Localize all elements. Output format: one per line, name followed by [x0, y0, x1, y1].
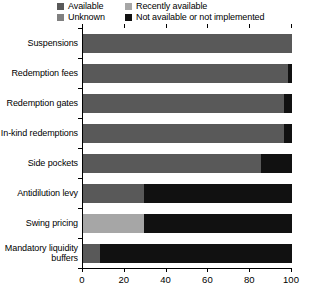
x-tick-label-0: 0: [79, 274, 84, 285]
y-tick-5: [78, 178, 82, 179]
bar-segment: [261, 154, 292, 173]
y-tick-1: [78, 58, 82, 59]
x-tick-0: [82, 268, 83, 272]
x-tick-label-20: 20: [119, 274, 130, 285]
x-tick-top-0: [82, 24, 83, 28]
x-tick-80: [249, 268, 250, 272]
x-tick-100: [291, 268, 292, 272]
legend-row-2: Unknown Not available or not implemented: [57, 12, 297, 23]
stacked-bar-chart: Available Recently available Unknown Not…: [0, 0, 323, 294]
legend-label-unknown: Unknown: [68, 12, 105, 23]
bar-segment: [144, 214, 292, 233]
bar-segment: [83, 184, 144, 203]
chart-legend: Available Recently available Unknown Not…: [57, 1, 297, 23]
legend-entry-recently-available: Recently available: [125, 1, 207, 12]
x-tick-top-40: [166, 24, 167, 28]
y-axis-label: Side pockets: [0, 158, 78, 168]
x-tick-top-80: [249, 24, 250, 28]
legend-swatch-unknown: [57, 14, 64, 21]
legend-label-available: Available: [68, 1, 103, 12]
y-axis-label: Redemption fees: [0, 68, 78, 78]
y-axis-label: Swing pricing: [0, 218, 78, 228]
y-tick-3: [78, 118, 82, 119]
y-tick-7: [78, 238, 82, 239]
y-axis-label: Antidilution levy: [0, 188, 78, 198]
legend-swatch-available: [57, 3, 64, 10]
x-tick-label-100: 100: [283, 274, 299, 285]
x-tick-label-40: 40: [160, 274, 171, 285]
y-tick-6: [78, 208, 82, 209]
bar-row: [83, 34, 292, 53]
bar-segment: [284, 94, 292, 113]
y-tick-8: [78, 268, 82, 269]
x-tick-top-20: [124, 24, 125, 28]
legend-entry-not-available: Not available or not implemented: [125, 12, 264, 23]
bar-row: [83, 154, 292, 173]
bar-row: [83, 64, 292, 83]
bar-row: [83, 124, 292, 143]
y-tick-2: [78, 88, 82, 89]
legend-label-recently-available: Recently available: [136, 1, 207, 12]
x-axis-line: [82, 268, 292, 269]
bar-row: [83, 244, 292, 263]
y-axis-label: Redemption gates: [0, 98, 78, 108]
bar-row: [83, 214, 292, 233]
bar-row: [83, 184, 292, 203]
legend-label-not-available: Not available or not implemented: [136, 12, 264, 23]
x-tick-label-80: 80: [244, 274, 255, 285]
y-tick-4: [78, 148, 82, 149]
bar-segment: [83, 214, 144, 233]
legend-swatch-recently-available: [125, 3, 132, 10]
bar-segment: [83, 64, 288, 83]
x-tick-20: [124, 268, 125, 272]
plot-area: 020406080100: [82, 28, 291, 268]
x-tick-top-60: [207, 24, 208, 28]
bar-segment: [83, 94, 284, 113]
bar-segment: [83, 154, 261, 173]
y-tick-0: [78, 28, 82, 29]
bar-segment: [288, 64, 292, 83]
legend-entry-available: Available: [57, 1, 125, 12]
y-axis-labels: SuspensionsRedemption feesRedemption gat…: [0, 28, 78, 268]
legend-entry-unknown: Unknown: [57, 12, 125, 23]
legend-swatch-not-available: [125, 14, 132, 21]
x-tick-60: [207, 268, 208, 272]
y-axis-label: Suspensions: [0, 38, 78, 48]
bar-segment: [83, 244, 100, 263]
bar-segment: [83, 34, 292, 53]
x-tick-label-60: 60: [202, 274, 213, 285]
bar-segment: [100, 244, 292, 263]
bar-segment: [284, 124, 292, 143]
y-axis-label: Mandatory liquidity buffers: [0, 243, 78, 263]
x-tick-40: [166, 268, 167, 272]
bar-segment: [144, 184, 292, 203]
x-tick-top-100: [291, 24, 292, 28]
legend-row-1: Available Recently available: [57, 1, 297, 12]
y-axis-label: In-kind redemptions: [0, 128, 78, 138]
bar-row: [83, 94, 292, 113]
bar-segment: [83, 124, 284, 143]
